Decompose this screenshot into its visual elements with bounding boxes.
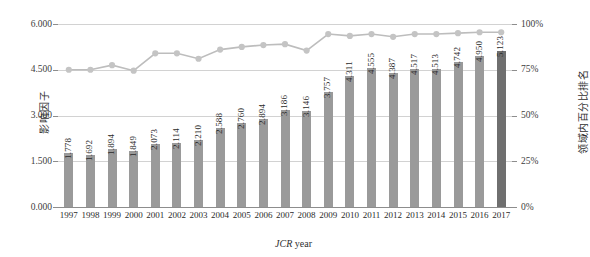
x-axis-tick-label: 2017 bbox=[488, 210, 514, 220]
y2-axis-title: 领域内百分比排名 bbox=[575, 42, 590, 182]
line-marker bbox=[455, 30, 461, 36]
line-marker bbox=[347, 33, 353, 39]
y-axis-tick-label: 1.500 bbox=[10, 156, 52, 166]
line-marker bbox=[282, 41, 288, 47]
y-axis-title: 影响因子 bbox=[36, 67, 51, 157]
line-path bbox=[69, 32, 501, 70]
line-series bbox=[58, 24, 512, 207]
line-marker bbox=[239, 44, 245, 50]
x-axis-line bbox=[58, 207, 512, 208]
axis-tick bbox=[512, 24, 517, 25]
y-axis-tick-label: 0.000 bbox=[10, 202, 52, 212]
line-marker bbox=[304, 47, 310, 53]
y-axis-tick-label: 6.000 bbox=[10, 19, 52, 29]
line-marker bbox=[217, 47, 223, 53]
line-marker bbox=[368, 31, 374, 37]
line-marker bbox=[476, 29, 482, 35]
y2-axis-tick-label: 0% bbox=[521, 202, 561, 212]
line-marker bbox=[498, 29, 504, 35]
plot-area: 1.7781.6921.8941.8492.0732.1142.2102.588… bbox=[58, 24, 512, 207]
x-axis-title: JCR year bbox=[0, 238, 587, 249]
y2-axis-tick-label: 100% bbox=[521, 19, 561, 29]
axis-tick bbox=[53, 207, 58, 208]
y2-axis-tick-label: 75% bbox=[521, 64, 561, 74]
line-marker bbox=[109, 62, 115, 68]
line-marker bbox=[325, 31, 331, 37]
line-marker bbox=[131, 68, 137, 74]
line-marker bbox=[412, 31, 418, 37]
axis-tick bbox=[512, 116, 517, 117]
line-marker bbox=[174, 50, 180, 56]
axis-tick bbox=[512, 161, 517, 162]
line-marker bbox=[87, 67, 93, 73]
y2-axis-tick-label: 25% bbox=[521, 156, 561, 166]
line-marker bbox=[433, 31, 439, 37]
line-marker bbox=[195, 56, 201, 62]
line-marker bbox=[260, 42, 266, 48]
line-marker bbox=[152, 50, 158, 56]
axis-tick bbox=[512, 207, 517, 208]
axis-tick bbox=[512, 70, 517, 71]
line-marker bbox=[390, 34, 396, 40]
x-axis-title-rest: year bbox=[292, 238, 312, 249]
y2-axis-tick-label: 50% bbox=[521, 110, 561, 120]
x-axis-title-italic: JCR bbox=[275, 238, 292, 249]
line-marker bbox=[66, 67, 72, 73]
